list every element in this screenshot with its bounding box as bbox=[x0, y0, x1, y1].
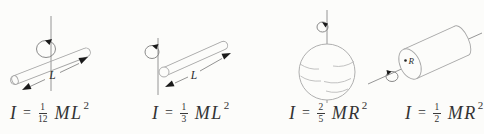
formula-exponent: 2 bbox=[224, 99, 230, 111]
formula-symbol-I: I bbox=[289, 103, 295, 124]
fraction-numerator: 1 bbox=[180, 102, 188, 114]
fraction-denominator: 2 bbox=[434, 114, 439, 125]
formula-fraction: 2 5 bbox=[317, 102, 325, 124]
inertia-formula: I = 2 5 MR2 bbox=[289, 101, 367, 125]
formula-equals: = bbox=[23, 105, 31, 121]
fraction-numerator: 1 bbox=[39, 102, 47, 114]
formula-fraction: 1 2 bbox=[433, 102, 441, 124]
fraction-denominator: 12 bbox=[38, 114, 48, 125]
formula-equals: = bbox=[418, 105, 426, 121]
rod-about-end-diagram: L bbox=[120, 0, 240, 102]
rotation-arrow-icon bbox=[37, 41, 56, 58]
moments-of-inertia-figure: L I = 1 12 ML2 bbox=[0, 0, 484, 134]
formula-symbol-I: I bbox=[405, 103, 411, 124]
length-dimension-arrow bbox=[165, 53, 231, 87]
length-label: L bbox=[190, 69, 197, 81]
formula-body: ML2 bbox=[195, 103, 230, 124]
panel-solid-cylinder: R I = 1 2 MR2 bbox=[360, 0, 484, 134]
radius-label: R bbox=[408, 56, 415, 66]
length-label: L bbox=[48, 69, 55, 81]
arrowhead-up-right-icon bbox=[222, 53, 232, 60]
formula-equals: = bbox=[302, 105, 310, 121]
rod-end-cap bbox=[159, 67, 169, 77]
fraction-denominator: 5 bbox=[318, 114, 323, 125]
formula-body: ML2 bbox=[54, 103, 89, 124]
formula-body: MR2 bbox=[448, 103, 484, 124]
arrowhead-down-left-icon bbox=[165, 80, 175, 87]
arrowhead-up-right-icon bbox=[79, 57, 89, 64]
arrowhead-down-left-icon bbox=[22, 83, 32, 90]
formula-exponent: 2 bbox=[478, 99, 484, 111]
panel-rod-about-center: L I = 1 12 ML2 bbox=[0, 0, 120, 134]
formula-exponent: 2 bbox=[83, 99, 89, 111]
solid-cylinder-diagram: R bbox=[360, 0, 484, 104]
formula-symbol-I: I bbox=[10, 103, 16, 124]
cylinder-shape bbox=[394, 23, 474, 82]
inertia-formula: I = 1 12 ML2 bbox=[10, 101, 89, 125]
fraction-numerator: 2 bbox=[317, 102, 325, 114]
panel-solid-sphere: I = 2 5 MR2 bbox=[240, 0, 360, 134]
fraction-denominator: 3 bbox=[181, 114, 186, 125]
inertia-formula: I = 1 2 MR2 bbox=[405, 101, 483, 125]
rod-about-center-diagram: L bbox=[0, 0, 120, 102]
inertia-formula: I = 1 3 ML2 bbox=[152, 101, 229, 125]
formula-symbol-I: I bbox=[152, 103, 158, 124]
fraction-numerator: 1 bbox=[433, 102, 441, 114]
formula-fraction: 1 12 bbox=[38, 102, 48, 124]
formula-equals: = bbox=[165, 105, 173, 121]
axis-center-dot bbox=[404, 59, 407, 62]
formula-fraction: 1 3 bbox=[180, 102, 188, 124]
panel-rod-about-end: L I = 1 3 ML2 bbox=[120, 0, 240, 134]
solid-sphere-diagram bbox=[240, 0, 360, 104]
